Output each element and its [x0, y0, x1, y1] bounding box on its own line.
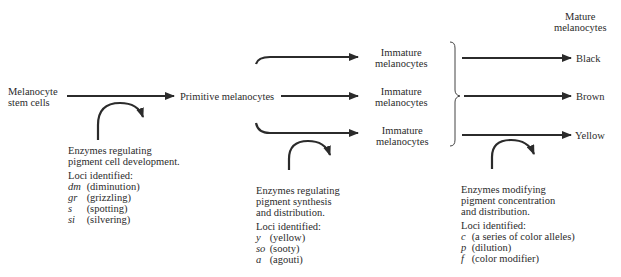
annotation-development: Enzymes regulating pigment cell developm…	[68, 145, 180, 225]
mature-header-line1: Mature	[554, 11, 606, 22]
annotation-modifying: Enzymes modifying pigment concentration …	[461, 184, 575, 264]
node-immature-2: Immature melanocytes	[375, 86, 427, 108]
annotation-3-loci-header: Loci identified:	[461, 220, 575, 231]
brace-icon	[450, 42, 460, 146]
locus-symbol: si	[68, 214, 84, 225]
node-immature-3: Immature melanocytes	[376, 125, 428, 147]
locus-name: (silvering)	[87, 214, 131, 225]
curved-arrow-synthesis	[289, 141, 330, 170]
immature-1-line1: Immature	[375, 47, 427, 58]
annotation-2-line2: pigment synthesis	[256, 196, 340, 207]
mature-header: Mature melanocytes	[554, 11, 606, 33]
curved-arrow-modifying	[492, 140, 534, 169]
immature-3-line2: melanocytes	[376, 136, 428, 147]
annotation-1-line2: pigment cell development.	[68, 156, 180, 167]
locus-row: dm (diminution)	[68, 181, 180, 192]
locus-row: y (yellow)	[256, 232, 340, 243]
immature-2-line2: melanocytes	[375, 97, 427, 108]
locus-symbol: f	[461, 253, 469, 264]
locus-row: p (dilution)	[461, 242, 575, 253]
locus-symbol: s	[68, 203, 84, 214]
locus-symbol: a	[256, 254, 267, 265]
locus-row: gr (grizzling)	[68, 192, 180, 203]
stem-cells-line2: stem cells	[8, 97, 58, 108]
node-yellow: Yellow	[575, 130, 605, 141]
locus-name: (sooty)	[270, 243, 300, 254]
arrow-primitive-to-immature-1	[256, 57, 358, 64]
locus-row: a (agouti)	[256, 254, 340, 265]
locus-symbol: so	[256, 243, 267, 254]
annotation-3-line2: pigment concentration	[461, 195, 575, 206]
locus-row: s (spotting)	[68, 203, 180, 214]
annotation-2-loci-header: Loci identified:	[256, 221, 340, 232]
locus-name: (a series of color alleles)	[472, 231, 575, 242]
node-brown: Brown	[576, 91, 605, 102]
node-black: Black	[576, 53, 601, 64]
immature-1-line2: melanocytes	[375, 58, 427, 69]
locus-row: si (silvering)	[68, 214, 180, 225]
locus-symbol: c	[461, 231, 469, 242]
annotation-1-line1: Enzymes regulating	[68, 145, 180, 156]
locus-name: (agouti)	[270, 254, 303, 265]
locus-name: (color modifier)	[472, 253, 539, 264]
locus-name: (yellow)	[270, 232, 306, 243]
annotation-synthesis: Enzymes regulating pigment synthesis and…	[256, 185, 340, 265]
locus-name: (spotting)	[87, 203, 128, 214]
immature-3-line1: Immature	[376, 125, 428, 136]
node-immature-1: Immature melanocytes	[375, 47, 427, 69]
locus-row: c (a series of color alleles)	[461, 231, 575, 242]
annotation-1-loci-header: Loci identified:	[68, 170, 180, 181]
locus-name: (dilution)	[472, 242, 512, 253]
locus-name: (grizzling)	[87, 192, 131, 203]
locus-symbol: dm	[68, 181, 84, 192]
locus-row: f (color modifier)	[461, 253, 575, 264]
locus-symbol: y	[256, 232, 267, 243]
locus-symbol: gr	[68, 192, 84, 203]
annotation-3-line1: Enzymes modifying	[461, 184, 575, 195]
locus-symbol: p	[461, 242, 469, 253]
annotation-2-line3: and distribution.	[256, 207, 340, 218]
annotation-3-line3: and distribution.	[461, 206, 575, 217]
node-stem-cells: Melanocyte stem cells	[8, 86, 58, 108]
mature-header-line2: melanocytes	[554, 22, 606, 33]
locus-row: so (sooty)	[256, 243, 340, 254]
curved-arrow-development	[98, 103, 143, 140]
immature-2-line1: Immature	[375, 86, 427, 97]
annotation-2-line1: Enzymes regulating	[256, 185, 340, 196]
locus-name: (diminution)	[87, 181, 140, 192]
node-primitive-melanocytes: Primitive melanocytes	[180, 91, 274, 102]
arrow-primitive-to-immature-3	[256, 123, 358, 133]
stem-cells-line1: Melanocyte	[8, 86, 58, 97]
